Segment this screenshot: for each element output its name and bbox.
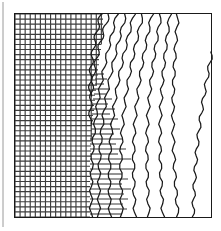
mesh-streamline-plot [0,0,221,231]
technical-figure [0,0,221,231]
